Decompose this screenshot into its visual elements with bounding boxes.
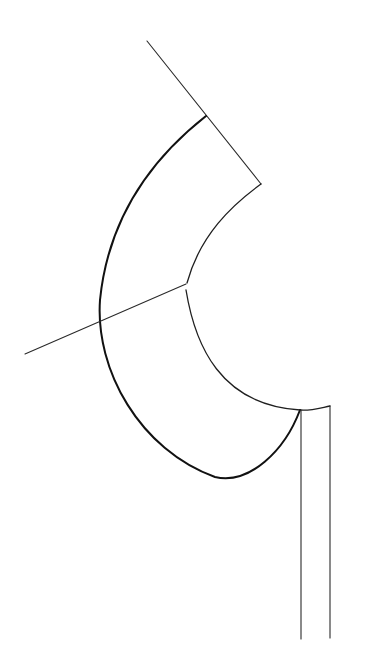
top-guide-line: [147, 41, 261, 184]
left-guide-line: [25, 284, 186, 354]
outer-seam-curve: [100, 116, 300, 478]
top-right-edge: [300, 406, 330, 410]
inner-curve-upper: [187, 184, 261, 283]
pattern-drawing-canvas: [0, 0, 384, 670]
pattern-piece-svg: [0, 0, 384, 670]
inner-curve-lower: [186, 290, 300, 410]
